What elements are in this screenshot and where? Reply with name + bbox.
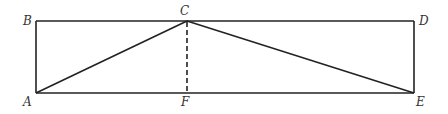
label-f: F (180, 95, 190, 109)
geometry-diagram: B C D A F E (0, 0, 448, 114)
label-a: A (22, 95, 32, 109)
label-c: C (180, 4, 189, 18)
segment-ac (36, 21, 187, 93)
label-d: D (418, 14, 429, 28)
segment-ce (187, 21, 414, 93)
label-b: B (22, 14, 32, 28)
label-e: E (415, 95, 425, 109)
